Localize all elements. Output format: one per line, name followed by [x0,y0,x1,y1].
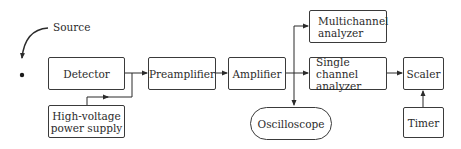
hv-power-supply-block: High-voltage power supply [48,105,125,138]
source-point-icon [20,73,24,77]
amplifier-block: Amplifier [228,57,286,90]
detector-label: Detector [63,68,110,80]
hv-supply-label-line2: power supply [51,122,123,134]
detector-block: Detector [48,57,125,90]
multichannel-analyzer-block: Multichannel analyzer [309,10,387,43]
preamplifier-label: Preamplifier [149,68,215,80]
radiation-detection-block-diagram: Source Detector High-voltage power suppl… [0,0,461,149]
multichannel-label-line2: analyzer [318,27,363,39]
scaler-block: Scaler [403,57,444,90]
amplifier-label: Amplifier [232,68,281,80]
timer-label: Timer [408,117,440,129]
hv-supply-label-line1: High-voltage [52,110,121,122]
single-channel-label-line2: analyzer [316,80,361,92]
multichannel-label-line1: Multichannel [318,15,388,27]
scaler-label: Scaler [407,68,441,80]
preamplifier-block: Preamplifier [148,57,216,90]
source-label: Source [53,21,90,33]
oscilloscope-label: Oscilloscope [258,118,325,130]
single-channel-label-line1: Single channel [316,56,386,80]
timer-block: Timer [403,107,444,138]
oscilloscope-block: Oscilloscope [250,107,332,140]
single-channel-analyzer-block: Single channel analyzer [309,57,387,90]
